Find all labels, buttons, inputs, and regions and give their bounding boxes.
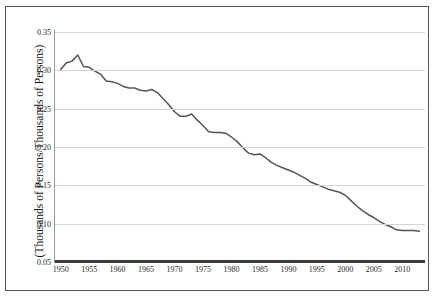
- x-axis-tick-labels: 1950195519601965197019751980198519901995…: [55, 265, 425, 279]
- y-axis-tick-label: 0.35: [37, 28, 51, 37]
- gridline: [55, 185, 425, 186]
- x-axis-line: [55, 260, 425, 263]
- gridline: [55, 224, 425, 225]
- x-axis-tick-label: 2005: [366, 265, 382, 274]
- chart-figure: (Thousands of Persons/Thousands of Perso…: [0, 0, 437, 298]
- y-axis-tick-labels: 0.350.300.250.200.150.100.05: [22, 32, 51, 262]
- x-axis-tick-label: 1960: [110, 265, 126, 274]
- x-axis-tick-label: 1995: [309, 265, 325, 274]
- y-axis-tick-label: 0.15: [37, 181, 51, 190]
- y-axis-tick-label: 0.25: [37, 104, 51, 113]
- gridline: [55, 147, 425, 148]
- y-axis-tick-label: 0.30: [37, 66, 51, 75]
- plot-area: [55, 32, 425, 262]
- x-axis-tick-label: 2010: [394, 265, 410, 274]
- clipped-header-text: [0, 0, 437, 5]
- x-axis-tick-label: 2000: [337, 265, 353, 274]
- y-axis-tick-label: 0.05: [37, 258, 51, 267]
- gridline: [55, 109, 425, 110]
- x-axis-tick-label: 1985: [252, 265, 268, 274]
- x-axis-tick-label: 1965: [138, 265, 154, 274]
- y-axis-tick-label: 0.10: [37, 219, 51, 228]
- x-axis-tick-label: 1980: [223, 265, 239, 274]
- x-axis-tick-label: 1975: [195, 265, 211, 274]
- x-axis-tick-label: 1950: [53, 265, 69, 274]
- x-axis-tick-label: 1990: [280, 265, 296, 274]
- x-axis-tick-label: 1955: [81, 265, 97, 274]
- gridline: [55, 32, 425, 33]
- y-axis-tick-label: 0.20: [37, 143, 51, 152]
- x-axis-tick-label: 1970: [167, 265, 183, 274]
- gridline: [55, 70, 425, 71]
